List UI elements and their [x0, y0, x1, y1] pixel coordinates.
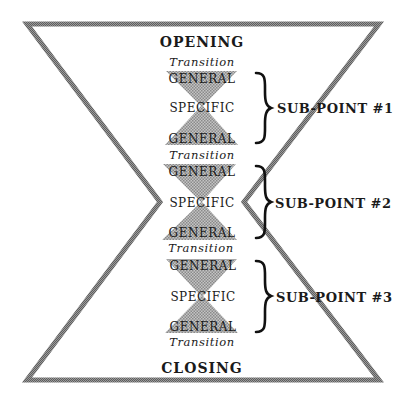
sub-point-1-general-bottom: GENERAL [169, 132, 236, 146]
sub-point-3-specific: SPECIFIC [170, 290, 235, 304]
sub-point-1-general-top: GENERAL [169, 72, 236, 86]
essay-structure-diagram: OPENING CLOSING Transition Transition Tr… [0, 0, 412, 403]
transition-label-4: Transition [169, 335, 235, 349]
sub-point-3-label: SUB-POINT #3 [276, 290, 393, 305]
opening-label: OPENING [160, 34, 245, 50]
transition-label-2: Transition [169, 148, 235, 162]
sub-point-2-specific: SPECIFIC [169, 196, 234, 210]
closing-label: CLOSING [161, 360, 243, 376]
sub-point-3-general-top: GENERAL [170, 259, 237, 273]
transition-label-1: Transition [169, 55, 235, 69]
brace-sub-point-1 [256, 73, 271, 143]
sub-point-1-label: SUB-POINT #1 [277, 101, 394, 116]
sub-point-2-label: SUB-POINT #2 [275, 196, 392, 211]
transition-label-3: Transition [168, 241, 234, 255]
sub-point-1-specific: SPECIFIC [169, 101, 234, 115]
brace-sub-point-3 [256, 261, 271, 332]
sub-point-2-general-bottom: GENERAL [169, 226, 236, 240]
sub-point-3-general-bottom: GENERAL [170, 320, 237, 334]
sub-point-2-general-top: GENERAL [169, 165, 236, 179]
